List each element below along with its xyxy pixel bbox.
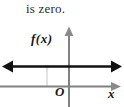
origin-label: O (55, 84, 64, 100)
function-label: f(x) (31, 31, 53, 47)
textbook-figure-screenshot: is zero. f(x) O x (0, 0, 124, 107)
function-right-arrowhead-icon (111, 61, 122, 73)
function-left-arrowhead-icon (2, 61, 13, 73)
y-axis-arrowhead-icon (65, 27, 74, 37)
x-axis-label: x (108, 86, 115, 102)
caption-text: is zero. (26, 1, 65, 16)
